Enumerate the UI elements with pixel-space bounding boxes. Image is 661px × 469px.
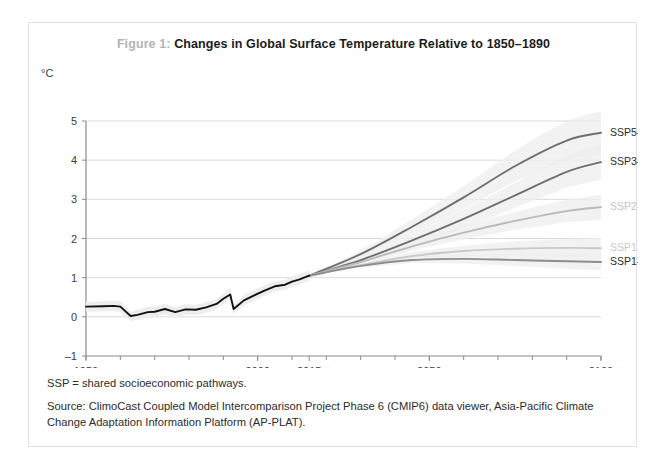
y-tick-label: –1 — [65, 350, 77, 362]
temperature-chart: 543210–119502000201520502100SSP5-8.5SSP3… — [29, 23, 638, 368]
note-ssp-definition: SSP = shared socioeconomic pathways. — [47, 375, 625, 391]
series-label-ssp5-8.5: SSP5-8.5 — [610, 126, 638, 138]
series-label-ssp2-4.5: SSP2-4.5 — [610, 200, 638, 212]
y-tick-label: 5 — [71, 115, 77, 127]
x-tick-label: 2100 — [589, 365, 613, 368]
series-label-ssp1-1.9: SSP1-1.9 — [610, 255, 638, 267]
x-tick-label: 2000 — [245, 365, 269, 368]
figure-card: Figure 1: Changes in Global Surface Temp… — [28, 22, 637, 447]
figure-notes: SSP = shared socioeconomic pathways. Sou… — [47, 375, 625, 431]
y-tick-label: 2 — [71, 233, 77, 245]
uncertainty-band-historical — [86, 271, 309, 322]
note-source: Source: ClimoCast Coupled Model Intercom… — [47, 398, 625, 430]
y-tick-label: 3 — [71, 193, 77, 205]
x-tick-label: 2015 — [297, 365, 321, 368]
x-tick-label: 1950 — [74, 365, 98, 368]
plot-area: °C 543210–119502000201520502100SSP5-8.5S… — [29, 23, 638, 363]
y-tick-label: 1 — [71, 272, 77, 284]
y-tick-label: 0 — [71, 311, 77, 323]
series-label-ssp3-7.0: SSP3-7.0 — [610, 155, 638, 167]
series-label-ssp1-2.6: SSP1-2.6 — [610, 241, 638, 253]
y-tick-label: 4 — [71, 154, 77, 166]
x-tick-label: 2050 — [417, 365, 441, 368]
